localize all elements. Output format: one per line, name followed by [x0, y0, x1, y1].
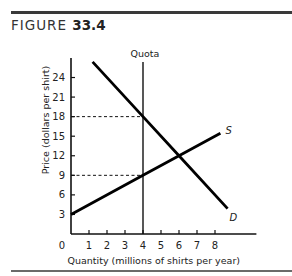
supply-demand-chart: 3691215182124012345678Quantity (millions… — [0, 0, 292, 276]
quota-label: Quota — [131, 48, 160, 59]
y-axis-title: Price (dollars per shirt) — [40, 66, 51, 174]
supply-curve — [71, 133, 220, 214]
supply-label: S — [225, 125, 232, 136]
x-tick-label: 1 — [86, 240, 92, 251]
x-tick-label: 2 — [104, 240, 110, 251]
y-tick-label: 15 — [52, 131, 65, 142]
y-tick-label: 9 — [59, 170, 65, 181]
y-tick-label: 24 — [52, 72, 65, 83]
demand-label: D — [230, 212, 238, 223]
x-tick-label: 0 — [59, 240, 65, 251]
x-tick-label: 6 — [176, 240, 182, 251]
x-tick-label: 3 — [122, 240, 128, 251]
x-tick-label: 5 — [158, 240, 164, 251]
demand-curve — [93, 62, 228, 209]
y-tick-label: 6 — [59, 189, 65, 200]
y-tick-label: 21 — [52, 92, 65, 103]
y-tick-label: 12 — [52, 150, 65, 161]
x-tick-label: 4 — [140, 240, 146, 251]
y-tick-label: 18 — [52, 111, 65, 122]
bottom-rule — [11, 270, 292, 272]
x-tick-label: 8 — [212, 240, 218, 251]
x-tick-label: 7 — [194, 240, 200, 251]
x-axis-title: Quantity (millions of shirts per year) — [68, 255, 240, 266]
y-tick-label: 3 — [59, 209, 65, 220]
